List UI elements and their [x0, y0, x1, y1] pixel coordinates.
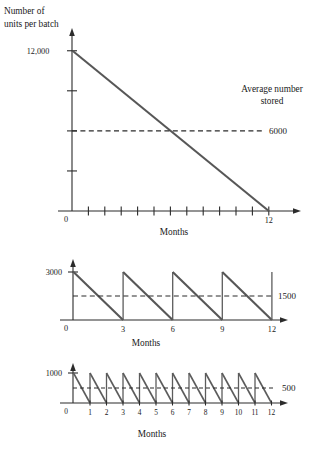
chart3-x-tick-label-2: 2 — [105, 408, 109, 417]
chart3-x-tick-label-4: 4 — [138, 408, 142, 417]
chart3-x-tick-label-6: 6 — [171, 408, 175, 417]
chart2-x-tick-label-6: 6 — [171, 325, 175, 334]
chart3-x-tick-label-7: 7 — [187, 408, 191, 417]
chart3-x-tick-label-12: 12 — [268, 408, 276, 417]
yaxis-title-line1: Number of — [4, 6, 45, 16]
chart3-x-tick-label-3: 3 — [121, 408, 125, 417]
chart-one-batch: Number of units per batch 12,000 — [4, 6, 304, 237]
chart1-y-tick-label-12000: 12,000 — [27, 47, 50, 56]
chart3-x-tick-label-9: 9 — [220, 408, 224, 417]
chart2-x-tick-label-0: 0 — [64, 324, 68, 333]
average-stored-annotation-line1: Average number — [241, 84, 303, 94]
chart3-depletion-11 — [239, 373, 256, 403]
chart1-xaxis-label: Months — [160, 227, 189, 237]
inventory-cycle-figure: Number of units per batch 12,000 — [0, 0, 326, 451]
chart3-xaxis-label: Months — [138, 429, 167, 439]
chart-twelve-batches: 1000 500 — [46, 363, 296, 439]
figure-canvas: Number of units per batch 12,000 — [0, 0, 326, 451]
chart3-x-tick-label-11: 11 — [251, 408, 258, 417]
chart3-x-tick-label-0: 0 — [64, 407, 68, 416]
chart3-depletion-8 — [189, 373, 206, 403]
chart3-x-tick-label-8: 8 — [204, 408, 208, 417]
chart1-y-axis-arrowhead — [69, 28, 75, 36]
yaxis-title-line2: units per batch — [4, 19, 59, 29]
average-stored-annotation-line2: stored — [261, 96, 284, 106]
chart3-x-axis-arrowhead — [280, 400, 288, 406]
chart1-x-tick-label-12: 12 — [265, 216, 273, 225]
chart3-x-tick-label-10: 10 — [235, 408, 243, 417]
chart2-x-tick-label-12: 12 — [268, 325, 276, 334]
chart1-x-tick-label-0: 0 — [64, 215, 68, 224]
chart3-y-tick-label-1000: 1000 — [46, 369, 62, 378]
chart1-average-label: 6000 — [269, 126, 288, 136]
chart-four-batches: 3000 1500 0 3 6 9 12 Months — [46, 259, 297, 348]
chart2-average-label: 1500 — [278, 291, 297, 301]
chart2-x-axis-arrowhead — [280, 317, 288, 323]
chart2-y-axis-arrowhead — [70, 259, 76, 267]
chart2-x-tick-label-9: 9 — [220, 325, 224, 334]
chart2-x-tick-label-3: 3 — [121, 325, 125, 334]
chart1-x-axis-arrowhead — [293, 208, 301, 214]
chart3-average-label: 500 — [282, 383, 296, 393]
chart3-x-tick-label-5: 5 — [154, 408, 158, 417]
chart2-depletion-3 — [173, 272, 223, 320]
chart2-y-tick-label-3000: 3000 — [46, 268, 62, 277]
chart2-xaxis-label: Months — [132, 338, 161, 348]
chart2-depletion-4 — [222, 272, 272, 320]
chart3-x-tick-label-1: 1 — [88, 408, 92, 417]
chart3-y-axis-arrowhead — [70, 363, 76, 371]
chart2-depletion-2 — [123, 272, 173, 320]
